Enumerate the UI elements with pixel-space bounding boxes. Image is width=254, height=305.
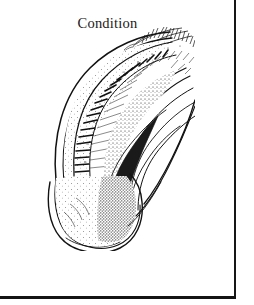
base-shadow [97, 176, 138, 242]
illustration-artwork [40, 26, 195, 251]
scanned-page: Condition [0, 0, 254, 305]
anatomical-illustration [40, 26, 195, 251]
page-rule-right [234, 0, 236, 299]
page-rule-bottom [0, 296, 236, 299]
